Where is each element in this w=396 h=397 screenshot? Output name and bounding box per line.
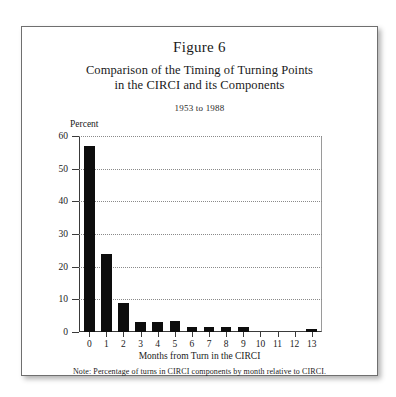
x-axis-tick — [175, 332, 176, 337]
y-axis-tick-label: 0 — [63, 327, 68, 337]
x-axis-tick — [295, 332, 296, 337]
x-axis-tick — [243, 332, 244, 337]
figure-frame: Figure 6 Comparison of the Timing of Tur… — [21, 26, 378, 376]
x-axis-tick — [226, 332, 227, 337]
x-axis-tick — [278, 332, 279, 337]
page-title: Figure 6 — [22, 39, 377, 56]
y-gridline — [79, 169, 322, 170]
x-axis-tick — [209, 332, 210, 337]
y-axis-label: Percent — [70, 119, 99, 129]
y-axis-tick — [72, 136, 79, 137]
y-axis-tick — [72, 299, 79, 300]
chart-bar — [118, 303, 129, 332]
chart-bar — [152, 322, 163, 332]
chart-plot-area: 0102030405060012345678910111213 — [79, 136, 322, 332]
y-gridline — [79, 201, 322, 202]
y-axis-tick — [72, 201, 79, 202]
x-axis-tick-label: 12 — [290, 339, 300, 349]
y-gridline — [79, 299, 322, 300]
x-axis-tick — [260, 332, 261, 337]
chart-bar — [101, 254, 112, 332]
y-axis-tick-label: 60 — [59, 131, 69, 141]
chart-bar — [187, 327, 198, 332]
y-axis-tick — [72, 234, 79, 235]
figure-subtitle-line1: Comparison of the Timing of Turning Poin… — [22, 63, 377, 78]
x-axis-tick — [123, 332, 124, 337]
chart-bar — [135, 322, 146, 332]
x-axis-tick-label: 0 — [87, 339, 92, 349]
y-gridline — [79, 136, 322, 137]
y-axis-tick-label: 50 — [59, 164, 69, 174]
x-axis-tick — [106, 332, 107, 337]
x-axis-tick-label: 7 — [207, 339, 212, 349]
x-axis-tick — [141, 332, 142, 337]
x-axis-tick-label: 3 — [138, 339, 143, 349]
x-axis-tick — [312, 332, 313, 337]
x-axis-tick-label: 11 — [273, 339, 282, 349]
x-axis-tick-label: 4 — [155, 339, 160, 349]
figure-subtitle-line2: in the CIRCI and its Components — [22, 78, 377, 93]
chart-bar — [221, 327, 232, 332]
figure-page: Figure 6 Comparison of the Timing of Tur… — [0, 0, 396, 397]
chart-bar — [306, 329, 317, 332]
x-axis-tick-label: 8 — [224, 339, 229, 349]
y-axis-tick-label: 40 — [59, 196, 69, 206]
x-axis-tick-label: 9 — [241, 339, 246, 349]
y-axis-tick-label: 10 — [59, 294, 69, 304]
x-axis-tick — [89, 332, 90, 337]
x-axis-tick-label: 2 — [121, 339, 126, 349]
y-axis-tick — [72, 169, 79, 170]
chart-bar — [238, 327, 249, 332]
chart-bar — [170, 321, 181, 332]
chart-bar — [84, 146, 95, 332]
x-axis-tick-label: 6 — [190, 339, 195, 349]
x-axis-tick-label: 5 — [172, 339, 177, 349]
x-axis-tick — [158, 332, 159, 337]
x-axis-tick-label: 13 — [307, 339, 317, 349]
x-axis-tick — [192, 332, 193, 337]
y-axis-tick-label: 20 — [59, 262, 69, 272]
y-axis-tick-label: 30 — [59, 229, 69, 239]
y-gridline — [79, 234, 322, 235]
x-axis-label: Months from Turn in the CIRCI — [22, 351, 377, 361]
figure-note: Note: Percentage of turns in CIRCI compo… — [22, 367, 377, 376]
y-axis-tick — [72, 267, 79, 268]
x-axis-tick-label: 10 — [256, 339, 266, 349]
figure-subtitle: Comparison of the Timing of Turning Poin… — [22, 63, 377, 93]
chart-bar — [204, 327, 215, 332]
y-gridline — [79, 267, 322, 268]
figure-date-range: 1953 to 1988 — [22, 103, 377, 113]
x-axis-tick-label: 1 — [104, 339, 109, 349]
y-axis-tick — [72, 332, 79, 333]
